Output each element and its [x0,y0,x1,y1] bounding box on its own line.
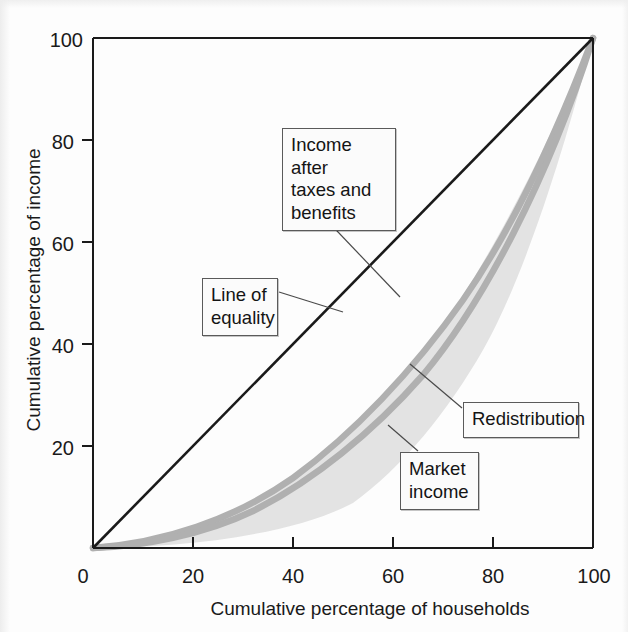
callout-market-income[interactable]: Market income [400,452,479,510]
callout-line-of-equality[interactable]: Line of equality [202,278,278,336]
lorenz-chart: 100 80 60 40 20 0 20 40 60 80 100 Cumula… [0,0,628,632]
x-tick-label-80: 80 [482,565,504,587]
y-tick-label-0: 0 [77,565,88,587]
y-tick-label-40: 40 [52,335,74,357]
x-axis-ticks [193,537,493,548]
lorenz-curve-figure: 100 80 60 40 20 0 20 40 60 80 100 Cumula… [0,0,628,632]
x-tick-label-40: 40 [282,565,304,587]
x-axis-title: Cumulative percentage of households [211,598,530,619]
x-tick-label-20: 20 [182,565,204,587]
y-axis-title: Cumulative percentage of income [23,148,44,431]
y-tick-label-80: 80 [52,131,74,153]
y-tick-label-60: 60 [52,233,74,255]
callout-income-after-taxes[interactable]: Income after taxes and benefits [282,128,396,231]
y-axis-ticks [82,140,93,446]
x-tick-label-100: 100 [577,565,610,587]
y-tick-label-20: 20 [52,437,74,459]
callout-redistribution[interactable]: Redistribution [463,402,579,438]
x-tick-label-60: 60 [382,565,404,587]
y-tick-label-100: 100 [50,29,83,51]
